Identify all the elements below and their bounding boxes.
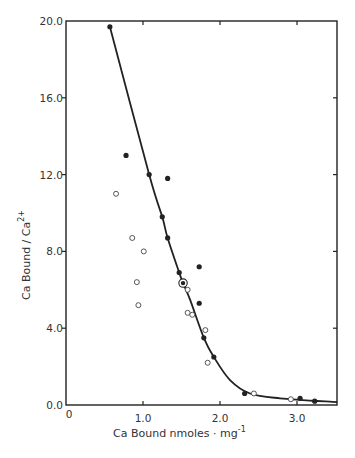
filled-data-point bbox=[160, 214, 165, 219]
x-axis-label: Ca Bound nmoles · mg-1 bbox=[113, 425, 246, 440]
scatchard-plot: 0.04.08.012.016.020.0 01.02.03.0 Ca Boun… bbox=[0, 0, 355, 458]
x-tick-label: 0 bbox=[66, 408, 73, 420]
open-data-point bbox=[141, 249, 146, 254]
x-tick-label: 1.0 bbox=[135, 412, 152, 424]
y-tick-label: 0.0 bbox=[46, 399, 63, 411]
y-tick-label: 20.0 bbox=[40, 15, 63, 27]
filled-data-point bbox=[165, 235, 170, 240]
filled-data-point bbox=[107, 24, 112, 29]
filled-data-point bbox=[201, 335, 206, 340]
y-tick-label: 16.0 bbox=[40, 92, 63, 104]
filled-data-point bbox=[147, 172, 152, 177]
plot-frame bbox=[66, 21, 337, 405]
open-data-point bbox=[190, 312, 195, 317]
filled-data-point bbox=[312, 399, 317, 404]
x-tick-label: 2.0 bbox=[212, 412, 229, 424]
open-data-point bbox=[205, 360, 210, 365]
filled-data-point bbox=[242, 391, 247, 396]
x-tick-label: 3.0 bbox=[289, 412, 306, 424]
fitted-curve-path bbox=[110, 27, 337, 402]
axes-box bbox=[66, 21, 337, 405]
y-tick-label: 8.0 bbox=[46, 245, 63, 257]
open-data-point bbox=[288, 397, 293, 402]
filled-data-point bbox=[165, 176, 170, 181]
filled-data-point bbox=[297, 396, 302, 401]
y-tick-label: 12.0 bbox=[40, 169, 63, 181]
x-axis-ticks: 01.02.03.0 bbox=[66, 21, 306, 424]
filled-data-point bbox=[197, 301, 202, 306]
filled-data-point bbox=[211, 354, 216, 359]
fitted-curve bbox=[110, 27, 337, 402]
y-axis-ticks: 0.04.08.012.016.020.0 bbox=[40, 15, 337, 411]
open-data-point bbox=[136, 303, 141, 308]
open-data-point bbox=[130, 235, 135, 240]
y-tick-label: 4.0 bbox=[46, 322, 63, 334]
open-data-point bbox=[251, 391, 256, 396]
open-data-point bbox=[203, 328, 208, 333]
y-axis-label: Ca Bound / Ca2+ bbox=[17, 210, 33, 300]
filled-data-point bbox=[197, 264, 202, 269]
filled-data-point bbox=[177, 270, 182, 275]
open-data-point bbox=[185, 287, 190, 292]
circled-dot-center bbox=[181, 281, 185, 285]
filled-data-point bbox=[123, 153, 128, 158]
open-data-point bbox=[134, 280, 139, 285]
data-points bbox=[107, 24, 317, 404]
open-data-point bbox=[114, 191, 119, 196]
